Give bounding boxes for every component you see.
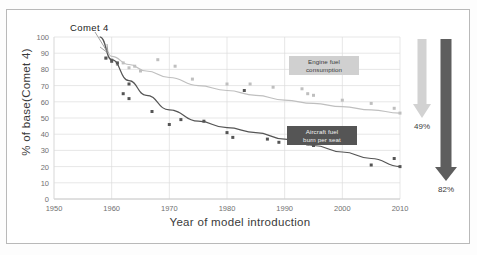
y-tick-label: 0 bbox=[27, 195, 49, 204]
y-tick-label: 30 bbox=[27, 146, 49, 155]
x-tick-label: 1950 bbox=[37, 204, 71, 213]
x-tick-label: 1980 bbox=[210, 204, 244, 213]
x-tick-label: 1990 bbox=[268, 204, 302, 213]
chart-page: Comet 4 % of base(Comet 4) Year of model… bbox=[0, 0, 477, 255]
x-tick-label: 1960 bbox=[95, 204, 129, 213]
comet-leader-line bbox=[95, 32, 108, 53]
reduction-arrows bbox=[413, 39, 457, 181]
series-label-aircraft-fuel-burn: Aircraft fuel burn per seat bbox=[287, 126, 357, 145]
series-label-engine-line2: consumption bbox=[293, 66, 355, 74]
y-tick-label: 100 bbox=[27, 33, 49, 42]
x-tick-label: 2010 bbox=[383, 204, 417, 213]
reduction-percent-aircraft: 82% bbox=[429, 185, 463, 194]
annotation-comet-4: Comet 4 bbox=[70, 22, 109, 33]
y-tick-label: 10 bbox=[27, 179, 49, 188]
x-tick-label: 1970 bbox=[152, 204, 186, 213]
y-tick-label: 20 bbox=[27, 163, 49, 172]
series-label-engine-fuel-consumption: Engine fuel consumption bbox=[289, 56, 359, 75]
y-tick-label: 90 bbox=[27, 49, 49, 58]
y-tick-label: 80 bbox=[27, 65, 49, 74]
y-tick-label: 40 bbox=[27, 130, 49, 139]
x-tick-label: 2000 bbox=[325, 204, 359, 213]
y-tick-label: 70 bbox=[27, 82, 49, 91]
reduction-percent-engine: 49% bbox=[405, 122, 439, 131]
y-tick-label: 50 bbox=[27, 114, 49, 123]
x-axis-title: Year of model introduction bbox=[100, 216, 380, 228]
series-label-aircraft-line2: burn per seat bbox=[291, 136, 353, 144]
series-label-engine-line1: Engine fuel bbox=[293, 58, 355, 66]
series-label-aircraft-line1: Aircraft fuel bbox=[291, 128, 353, 136]
y-tick-label: 60 bbox=[27, 98, 49, 107]
